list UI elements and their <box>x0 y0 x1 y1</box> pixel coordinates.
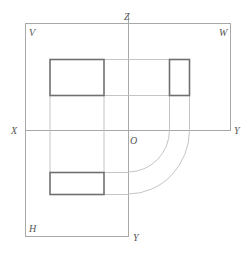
z-axis-label: Z <box>124 11 130 22</box>
side-view-rect <box>170 60 190 96</box>
y-axis-bottom-label: Y <box>133 232 140 243</box>
y-axis-right-label: Y <box>234 125 241 136</box>
h-plane-label: H <box>28 223 37 234</box>
origin-label: O <box>130 135 137 146</box>
x-axis-label: X <box>10 125 18 136</box>
front-view-rect <box>50 60 104 96</box>
projection-diagram: Z V W X Y O H Y <box>0 0 250 254</box>
v-plane-label: V <box>29 27 37 38</box>
top-view-rect <box>50 173 104 195</box>
w-plane-label: W <box>219 27 229 38</box>
